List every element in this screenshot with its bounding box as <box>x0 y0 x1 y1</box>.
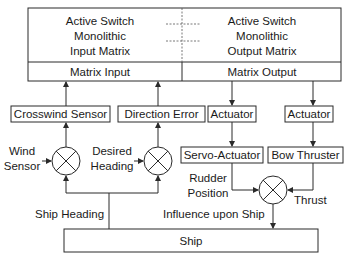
output-matrix-title-line-1: Active Switch <box>228 15 296 27</box>
crosswind-sensor-label: Crosswind Sensor <box>14 108 107 120</box>
wind-sensor-label-line-1: Wind <box>9 145 35 157</box>
ship-heading-feedback-right <box>109 176 158 193</box>
matrix-input-label: Matrix Input <box>70 66 131 78</box>
rudder-position-label-line-2: Position <box>188 187 229 199</box>
output-matrix-title-line-2: Monolithic <box>236 30 288 42</box>
influence-label: Influence upon Ship <box>163 208 265 220</box>
desired-heading-label-line-1: Desired <box>92 145 132 157</box>
influence-junction <box>259 176 287 204</box>
input-matrix-title-line-3: Input Matrix <box>70 45 130 57</box>
wind-sensor-label-line-2: Sensor <box>4 160 41 172</box>
rudder-position-label-line-1: Rudder <box>189 172 227 184</box>
actuator-1-label: Actuator <box>211 108 254 120</box>
actuator-2-label: Actuator <box>288 108 331 120</box>
matrix-output-label: Matrix Output <box>227 66 297 78</box>
bow-thruster-label: Bow Thruster <box>271 149 339 161</box>
input-matrix-title-line-2: Monolithic <box>74 30 126 42</box>
desired-heading-label-line-2: Heading <box>91 160 134 172</box>
ship-heading-label: Ship Heading <box>35 208 104 220</box>
output-matrix-title-line-3: Output Matrix <box>227 45 296 57</box>
heading-junction <box>144 147 172 175</box>
input-matrix-title-line-1: Active Switch <box>66 15 134 27</box>
matrix-block: Active Switch Monolithic Input Matrix Ac… <box>28 8 341 81</box>
wind-junction <box>52 147 80 175</box>
rudder-position-arrow <box>232 163 258 190</box>
servo-actuator-label: Servo-Actuator <box>184 149 261 161</box>
control-diagram: Active Switch Monolithic Input Matrix Ac… <box>0 0 350 258</box>
thrust-label: Thrust <box>294 194 327 206</box>
thrust-arrow <box>288 163 313 190</box>
ship-label: Ship <box>179 235 202 247</box>
direction-error-label: Direction Error <box>124 108 198 120</box>
ship-heading-feedback-left <box>66 176 109 229</box>
